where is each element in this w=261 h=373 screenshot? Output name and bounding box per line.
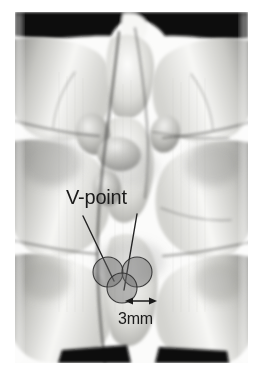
ct-figure: V-point 3mm xyxy=(0,0,261,373)
scale-label-3mm: 3mm xyxy=(118,310,153,328)
v-point-label: V-point xyxy=(66,186,127,209)
